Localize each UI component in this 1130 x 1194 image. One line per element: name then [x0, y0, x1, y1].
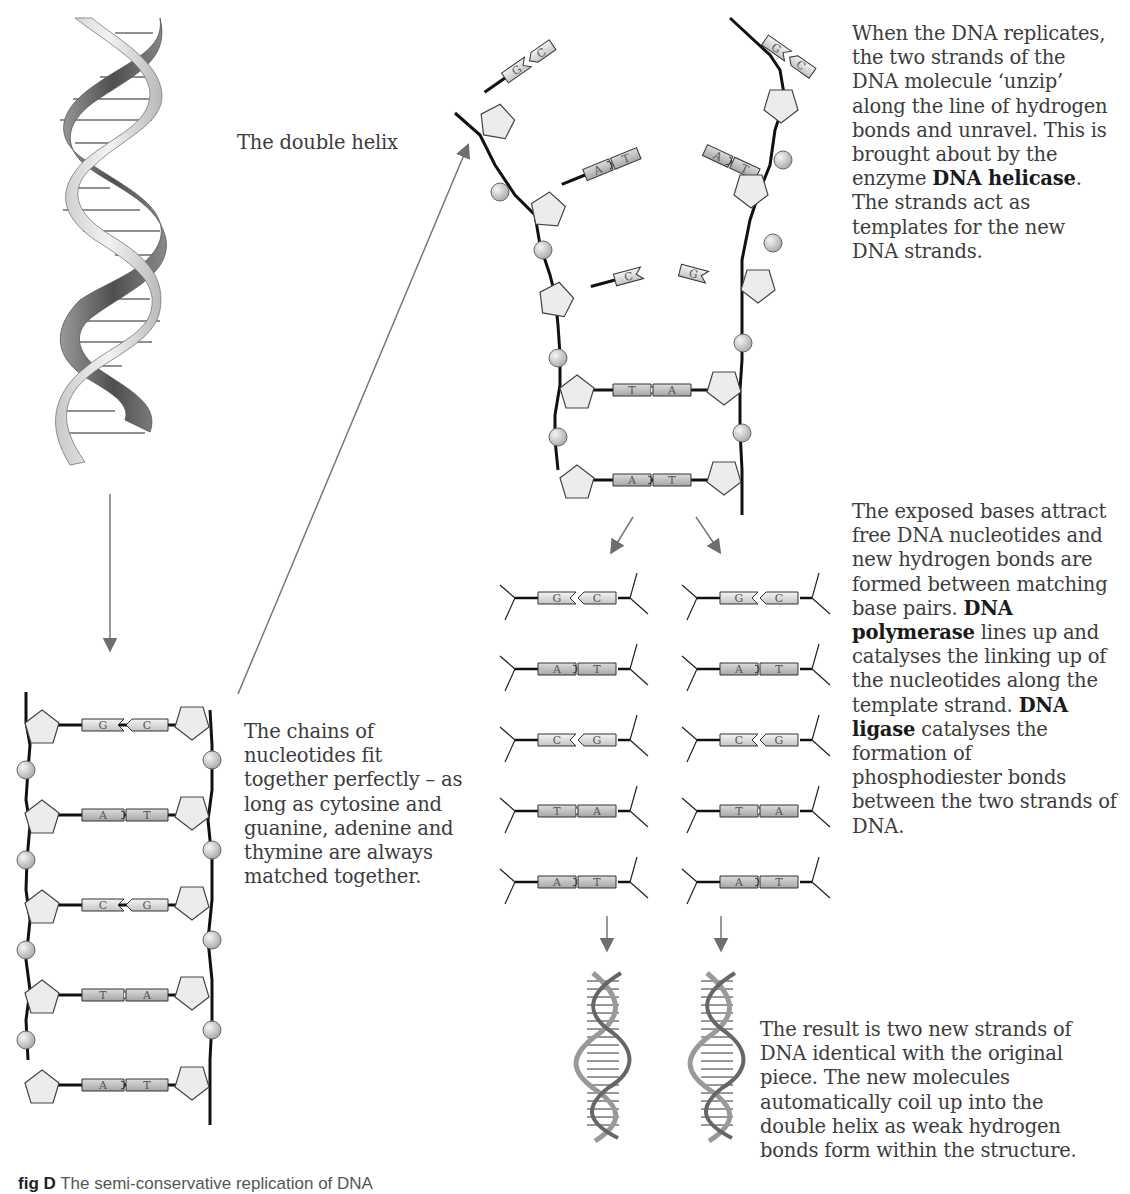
svg-text:T: T	[593, 876, 601, 889]
label-chains: The chains of nucleotides fit together p…	[244, 720, 469, 889]
svg-text:A: A	[552, 876, 562, 889]
double-helix-illustration	[56, 18, 167, 465]
svg-text:G: G	[593, 734, 602, 747]
svg-text:A: A	[98, 809, 108, 822]
arrow-split-right	[696, 517, 717, 548]
unzipping-strands: GCATCGCATGTAAT	[455, 18, 816, 515]
term-dna-helicase: DNA helicase	[932, 167, 1076, 190]
svg-text:A: A	[552, 663, 562, 676]
svg-text:T: T	[99, 989, 107, 1002]
figure-caption-text: The semi-conservative replication of DNA	[60, 1174, 373, 1193]
svg-text:T: T	[775, 663, 783, 676]
label-exposed-bases: The exposed bases attract free DNA nucle…	[852, 500, 1124, 839]
svg-text:G: G	[99, 719, 108, 732]
svg-text:G: G	[775, 734, 784, 747]
svg-text:T: T	[735, 805, 743, 818]
svg-text:T: T	[593, 663, 601, 676]
svg-text:C: C	[143, 719, 151, 732]
svg-text:A: A	[592, 805, 602, 818]
svg-text:A: A	[734, 876, 744, 889]
svg-text:T: T	[143, 809, 151, 822]
svg-text:A: A	[627, 474, 637, 487]
new-helix-left	[576, 973, 629, 1141]
label-unzip: When the DNA replicates, the two strands…	[852, 22, 1112, 264]
svg-text:T: T	[553, 805, 561, 818]
svg-text:C: C	[593, 592, 601, 605]
new-strand-pairs: GCATCGTAATGCATCGTAAT	[500, 573, 830, 904]
arrow-split-left	[614, 517, 633, 548]
svg-text:C: C	[99, 899, 107, 912]
figure-number: fig D	[18, 1174, 56, 1193]
svg-text:A: A	[98, 1079, 108, 1092]
arrow-to-unzip	[238, 150, 466, 694]
svg-text:G: G	[143, 899, 152, 912]
svg-text:A: A	[142, 989, 152, 1002]
unzip-text-1: When the DNA replicates, the two strands…	[852, 22, 1107, 190]
svg-text:C: C	[553, 734, 561, 747]
svg-text:A: A	[774, 805, 784, 818]
label-double-helix: The double helix	[237, 131, 398, 155]
svg-text:C: C	[735, 734, 743, 747]
svg-text:T: T	[775, 876, 783, 889]
nucleotide-ladder: GCATCGTAAT	[17, 692, 221, 1125]
svg-text:G: G	[735, 592, 744, 605]
figure-caption: fig D The semi-conservative replication …	[18, 1174, 373, 1194]
svg-text:A: A	[734, 663, 744, 676]
svg-text:C: C	[775, 592, 783, 605]
svg-text:T: T	[628, 384, 636, 397]
svg-text:A: A	[667, 384, 677, 397]
svg-text:G: G	[553, 592, 562, 605]
new-helix-right	[690, 973, 743, 1141]
svg-text:T: T	[668, 474, 676, 487]
label-result: The result is two new strands of DNA ide…	[760, 1018, 1100, 1163]
svg-text:T: T	[143, 1079, 151, 1092]
